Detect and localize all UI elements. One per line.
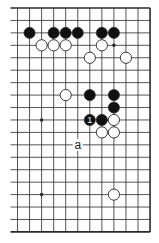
white-stone [120,52,131,63]
go-board: 1 a [0,0,159,243]
white-stone [108,114,119,125]
board-grid [11,8,151,232]
white-stone [108,127,119,138]
white-stone [108,189,119,200]
white-stone [48,40,59,51]
black-stone [84,89,95,100]
black-stone [108,27,119,38]
point-labels: a [73,138,83,152]
star-point [112,44,116,48]
white-stone [96,127,107,138]
white-stone [96,40,107,51]
black-stone [108,89,119,100]
white-stone [60,89,71,100]
black-stone [60,27,71,38]
black-stone [48,27,59,38]
white-stone [84,52,95,63]
star-point [40,118,44,122]
black-stone [96,114,107,125]
black-stone [72,27,83,38]
star-point [40,193,44,197]
move-number-label: 1 [87,115,92,125]
white-stone [60,40,71,51]
point-label-a: a [74,138,81,152]
white-stone [36,40,47,51]
black-stone [24,27,35,38]
black-stone [108,102,119,113]
black-stone [96,27,107,38]
